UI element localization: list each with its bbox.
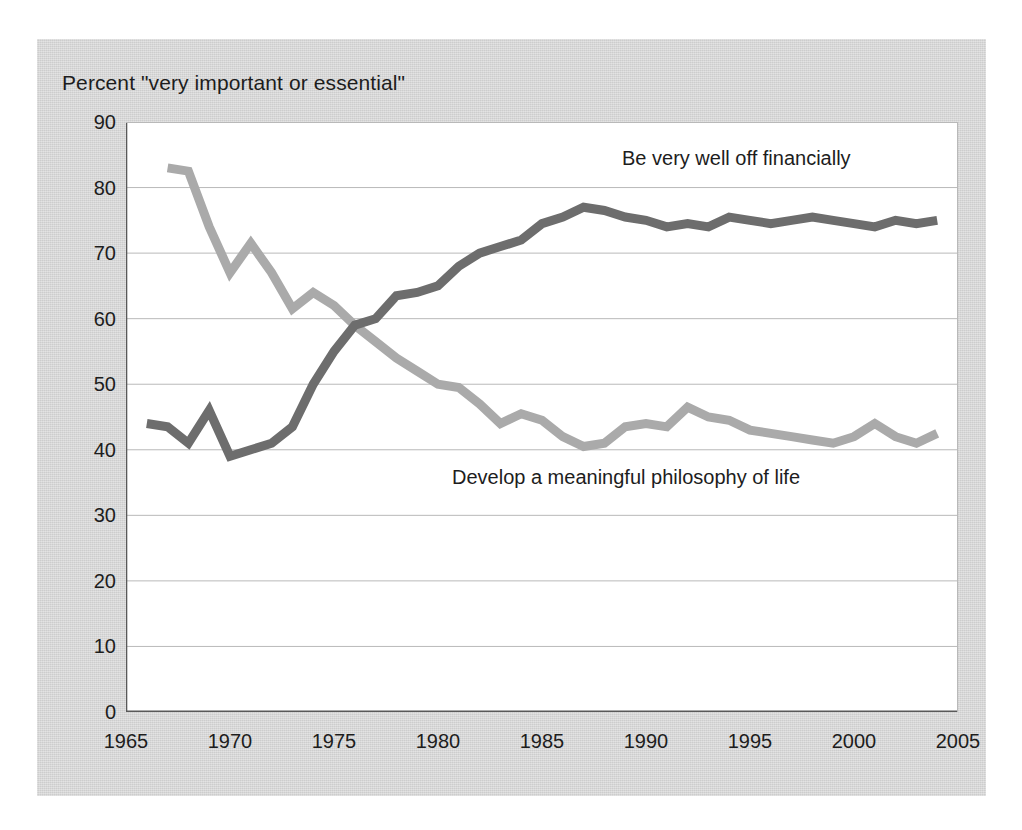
y-axis-tick-label: 80 — [64, 176, 116, 199]
series-label-financial: Be very well off financially — [622, 147, 851, 170]
y-axis-tick-label: 20 — [64, 569, 116, 592]
x-axis-tick-label: 1995 — [728, 730, 773, 753]
x-axis-tick-label: 2000 — [832, 730, 877, 753]
x-axis-tick-label: 1985 — [520, 730, 565, 753]
gridlines-group — [126, 122, 958, 646]
x-axis-tick-label: 1980 — [416, 730, 461, 753]
y-axis-tick-label: 10 — [64, 635, 116, 658]
series-label-philosophy: Develop a meaningful philosophy of life — [452, 466, 800, 489]
line-chart-svg — [126, 122, 958, 712]
x-axis-tick-label: 1975 — [312, 730, 357, 753]
plot-area — [126, 122, 958, 712]
page-title: Percent "very important or essential" — [62, 71, 405, 95]
x-axis-tick-label: 1965 — [104, 730, 149, 753]
chart-page: Percent "very important or essential" 90… — [0, 0, 1022, 830]
y-axis-tick-label: 30 — [64, 504, 116, 527]
y-axis-tick-label: 60 — [64, 307, 116, 330]
y-axis-tick-label: 70 — [64, 242, 116, 265]
series-line-philosophy — [168, 168, 938, 447]
series-paths-group — [147, 168, 937, 456]
x-axis-tick-label: 1970 — [208, 730, 253, 753]
y-axis-labels: 9080706050403020100 — [56, 122, 116, 712]
x-axis-labels: 196519701975198019851990199520002005 — [126, 730, 958, 760]
y-axis-tick-label: 0 — [64, 701, 116, 724]
x-axis-tick-label: 1990 — [624, 730, 669, 753]
y-axis-tick-label: 50 — [64, 373, 116, 396]
y-axis-tick-label: 90 — [64, 111, 116, 134]
x-axis-tick-label: 2005 — [936, 730, 981, 753]
y-axis-tick-label: 40 — [64, 438, 116, 461]
